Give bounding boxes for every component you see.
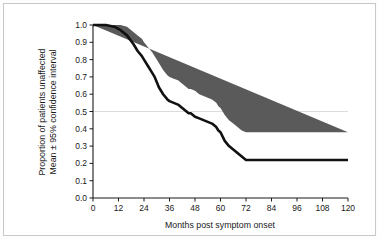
y-tick-label: 0.3 [75, 141, 87, 151]
y-axis-title-line2: Mean ± 95% confidence interval [48, 49, 58, 174]
y-tick-label: 0.1 [75, 176, 87, 186]
x-axis-title: Months post symptom onset [165, 220, 276, 230]
x-tick-label: 108 [315, 203, 329, 213]
x-tick-label: 48 [190, 203, 200, 213]
y-tick-label: 0.9 [75, 37, 87, 47]
y-tick-label: 0.5 [75, 107, 87, 117]
x-tick-label: 24 [139, 203, 149, 213]
x-tick-label: 0 [91, 203, 96, 213]
x-tick-label: 12 [114, 203, 124, 213]
x-tick-label: 96 [292, 203, 302, 213]
y-tick-label: 0.6 [75, 89, 87, 99]
x-tick-label: 84 [267, 203, 277, 213]
y-tick-label: 1.0 [75, 20, 87, 30]
y-tick-label: 0.0 [75, 193, 87, 203]
x-axis-ticks: 01224364860728496108120 [91, 198, 356, 213]
y-tick-label: 0.8 [75, 55, 87, 65]
survival-curve-chart: 0.00.10.20.30.40.50.60.70.80.91.0 012243… [0, 0, 379, 239]
y-tick-label: 0.2 [75, 158, 87, 168]
y-tick-label: 0.7 [75, 72, 87, 82]
x-tick-label: 120 [341, 203, 355, 213]
x-tick-label: 60 [216, 203, 226, 213]
y-tick-label: 0.4 [75, 124, 87, 134]
x-tick-label: 72 [241, 203, 251, 213]
y-axis-ticks: 0.00.10.20.30.40.50.60.70.80.91.0 [75, 20, 93, 203]
y-axis-title-line1: Proportion of patients unaffected [37, 48, 47, 175]
figure-container: 0.00.10.20.30.40.50.60.70.80.91.0 012243… [0, 0, 379, 239]
x-tick-label: 36 [165, 203, 175, 213]
